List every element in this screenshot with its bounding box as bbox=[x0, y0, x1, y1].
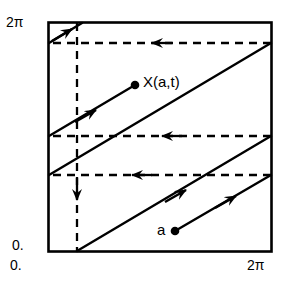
wrap-arrowheads-group bbox=[77, 43, 182, 200]
y-axis-min-label: 0. bbox=[12, 237, 24, 253]
x-axis-min-label: 0. bbox=[10, 257, 22, 273]
plot-canvas bbox=[0, 0, 291, 288]
point-a-label: a bbox=[157, 221, 165, 238]
y-axis-max-label: 2π bbox=[6, 14, 23, 30]
arrow-segment-5 bbox=[52, 29, 72, 41]
arrow-segment-1 bbox=[215, 196, 236, 208]
trajectory-segment-4 bbox=[49, 85, 135, 136]
trajectory-figure: 2π 0. 0. 2π X(a,t) a bbox=[0, 0, 291, 288]
point-X-marker bbox=[131, 81, 140, 90]
point-a-marker bbox=[171, 227, 180, 236]
wrap-lines-group bbox=[49, 23, 271, 251]
point-X-label: X(a,t) bbox=[143, 73, 180, 90]
x-axis-max-label: 2π bbox=[247, 257, 264, 273]
